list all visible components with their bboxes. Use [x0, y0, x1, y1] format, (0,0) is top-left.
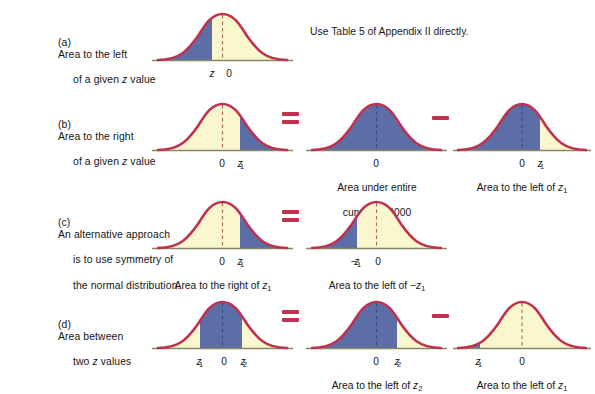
curve-panel-a1: z 0	[150, 6, 295, 68]
axis-label-zero: 0	[373, 356, 379, 367]
curve-panel-b1: 0 z1	[150, 96, 295, 158]
row-c-tag: (c)	[58, 217, 70, 228]
caption-d3-text: Area to the left of	[477, 380, 558, 391]
normal-curve-b3	[452, 96, 592, 158]
axis-label-zero: 0	[226, 68, 232, 79]
normal-curve-b1	[150, 96, 295, 158]
row-a-tag: (a)	[58, 37, 71, 48]
normal-curve-c1	[150, 194, 295, 256]
axis-label-z2: z2	[397, 356, 401, 367]
axis-label-z1: z1	[240, 256, 244, 267]
figure-row-c: (c) An alternative approach is to use sy…	[0, 186, 595, 286]
axis-labels-d1: z1 0 z2	[150, 356, 295, 370]
row-b-text: Area to the right of a given z value	[58, 131, 156, 167]
curve-panel-c1: 0 z1 Area to the right of z1	[150, 194, 295, 256]
figure-row-b: (b) Area to the right of a given z value…	[0, 88, 595, 186]
axis-label-z1: z1	[540, 158, 544, 169]
axis-label-zero: 0	[219, 256, 225, 267]
axis-label-zero: 0	[375, 256, 381, 267]
operator-equals-b	[282, 112, 299, 124]
caption-d3: Area to the left of z1	[422, 368, 595, 394]
axis-label-z1: z1	[199, 356, 203, 367]
row-d-tag: (d)	[58, 319, 71, 330]
curve-panel-d2: 0 z2 Area to the left of z2	[304, 294, 449, 356]
normal-curve-d1	[150, 294, 295, 356]
row-b-tag: (b)	[58, 119, 71, 130]
axis-label-z2: z2	[243, 356, 247, 367]
axis-label-zero: 0	[519, 158, 525, 169]
normal-curve-c2	[304, 194, 449, 256]
axis-labels-b1: 0 z1	[150, 158, 295, 172]
curve-panel-b2: 0 Area under entire curve = 1.0000	[304, 96, 449, 158]
axis-label-neg-z1: −z1	[351, 256, 361, 267]
axis-label-zero: 0	[373, 158, 379, 169]
axis-label-zero: 0	[221, 356, 227, 367]
axis-label-z1: z1	[240, 158, 244, 169]
axis-label-zero: 0	[519, 356, 525, 367]
axis-label-z1: z1	[478, 356, 482, 367]
operator-minus-b	[432, 116, 449, 120]
normal-curve-b2	[304, 96, 449, 158]
axis-labels-a1: z 0	[150, 68, 295, 82]
row-b-label: (b) Area to the right of a given z value	[58, 106, 156, 182]
curve-panel-d1: z1 0 z2	[150, 294, 295, 356]
axis-label-zero: 0	[219, 158, 225, 169]
normal-curve-d2	[304, 294, 449, 356]
row-a-text: Area to the left of a given z value	[58, 49, 156, 85]
row-d-text: Area between two z values	[58, 331, 131, 367]
operator-equals-c	[282, 210, 299, 222]
operator-equals-d	[282, 310, 299, 322]
curve-panel-c2: −z1 0 Area to the left of −z1	[304, 194, 449, 256]
figure-row-d: (d) Area between two z values z1 0 z2	[0, 286, 595, 388]
figure-row-a: (a) Area to the left of a given z value …	[0, 0, 595, 88]
curve-panel-d3: z1 0 Area to the left of z1	[452, 294, 592, 356]
row-d-label: (d) Area between two z values	[58, 306, 131, 382]
row-a-note: Use Table 5 of Appendix II directly.	[310, 26, 468, 37]
curve-panel-b3: 0 z1 Area to the left of z1	[452, 96, 592, 158]
operator-minus-d	[432, 314, 449, 318]
normal-curve-d3	[452, 294, 592, 356]
normal-curve-a1	[150, 6, 295, 68]
caption-d2-text: Area to the left of	[332, 380, 413, 391]
